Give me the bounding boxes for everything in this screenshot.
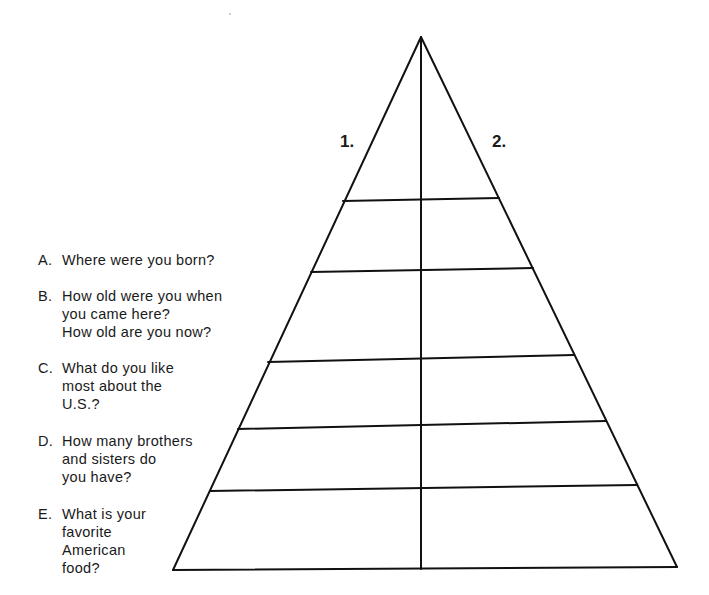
question-text: What do you like most about the U.S.? (62, 359, 174, 413)
question-text: Where were you born? (62, 251, 215, 269)
question-text: How many brothers and sisters do you hav… (62, 432, 193, 486)
question-letter: E. (38, 505, 52, 523)
column-label-1: 1. (340, 132, 354, 152)
scan-speck (229, 13, 231, 15)
question-letter: D. (38, 432, 53, 450)
pyramid-base (173, 567, 677, 570)
question-text: How old were you when you came here? How… (62, 287, 222, 341)
question-letter: B. (38, 287, 52, 305)
question-letter: A. (38, 251, 52, 269)
question-text: What is your favorite American food? (62, 505, 146, 577)
question-letter: C. (38, 359, 53, 377)
row-divider-5 (210, 485, 637, 491)
column-label-2: 2. (492, 132, 506, 152)
